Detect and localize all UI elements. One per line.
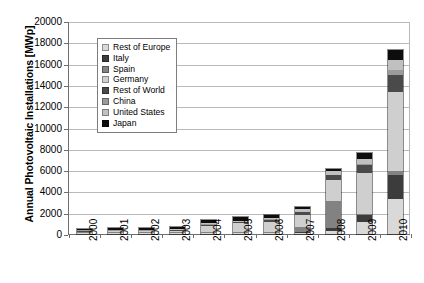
y-axis-tick-label: 6000 — [14, 165, 62, 176]
y-axis-tick-label: 4000 — [14, 186, 62, 197]
legend-swatch-icon — [102, 87, 109, 94]
legend-item-label: United States — [113, 108, 165, 117]
legend-item[interactable]: Italy — [102, 53, 173, 64]
x-axis-tick-label: 2010 — [398, 219, 409, 241]
chart-figure: Annual Photovoltaic Installations [MWp] … — [0, 0, 424, 283]
bar-segment — [388, 60, 403, 70]
y-axis-tick-label: 20000 — [14, 16, 62, 27]
x-axis-tick-mark — [349, 234, 350, 238]
legend-item-label: Germany — [113, 75, 148, 84]
legend-item-label: Rest of World — [113, 86, 165, 95]
x-axis-tick-label: 2001 — [119, 219, 130, 241]
legend-swatch-icon — [102, 76, 109, 83]
y-axis-tick-label: 16000 — [14, 59, 62, 70]
bar-segment — [388, 175, 403, 200]
x-axis-tick-label: 2000 — [88, 219, 99, 241]
x-axis-tick-mark — [131, 234, 132, 238]
x-axis-tick-label: 2005 — [243, 219, 254, 241]
x-axis-tick-mark — [162, 234, 163, 238]
bar-segment — [326, 180, 341, 201]
bar-segment — [388, 75, 403, 92]
legend-item[interactable]: United States — [102, 107, 173, 118]
x-axis-tick-mark — [69, 234, 70, 238]
bar-segment — [388, 92, 403, 171]
gridline — [69, 150, 410, 151]
legend-item-label: China — [113, 97, 135, 106]
x-axis-tick-label: 2008 — [336, 219, 347, 241]
x-axis-tick-label: 2009 — [367, 219, 378, 241]
legend-item-label: Japan — [113, 119, 136, 128]
x-axis-tick-mark — [100, 234, 101, 238]
gridline — [69, 22, 410, 23]
legend-swatch-icon — [102, 55, 109, 62]
x-axis-tick-label: 2004 — [212, 219, 223, 241]
y-axis-tick-label: 18000 — [14, 37, 62, 48]
bar-segment — [388, 50, 403, 61]
x-axis-tick-mark — [318, 234, 319, 238]
legend-item[interactable]: Spain — [102, 64, 173, 75]
y-axis-tick-mark — [64, 235, 68, 236]
x-axis-tick-mark — [287, 234, 288, 238]
stacked-bar[interactable] — [388, 50, 403, 234]
x-axis-tick-mark — [193, 234, 194, 238]
legend-swatch-icon — [102, 109, 109, 116]
legend-item[interactable]: Rest of World — [102, 86, 173, 97]
y-axis-tick-label: 10000 — [14, 123, 62, 134]
y-axis-tick-label: 8000 — [14, 144, 62, 155]
y-axis-tick-label: 0 — [14, 229, 62, 240]
chart-legend: Rest of EuropeItalySpainGermanyRest of W… — [97, 38, 177, 133]
legend-item-label: Italy — [113, 54, 129, 63]
legend-item[interactable]: Japan — [102, 118, 173, 129]
x-axis-tick-label: 2002 — [150, 219, 161, 241]
bar-segment — [357, 173, 372, 213]
legend-swatch-icon — [102, 120, 109, 127]
bar-segment — [357, 165, 372, 173]
y-axis-tick-label: 2000 — [14, 208, 62, 219]
legend-swatch-icon — [102, 66, 109, 73]
legend-item[interactable]: Rest of Europe — [102, 42, 173, 53]
legend-item-label: Spain — [113, 65, 135, 74]
legend-item[interactable]: Germany — [102, 75, 173, 86]
y-axis-tick-label: 14000 — [14, 80, 62, 91]
y-axis-tick-label: 12000 — [14, 101, 62, 112]
legend-swatch-icon — [102, 98, 109, 105]
x-axis-tick-mark — [256, 234, 257, 238]
x-axis-tick-mark — [411, 234, 412, 238]
x-axis-tick-label: 2007 — [305, 219, 316, 241]
x-axis-tick-label: 2003 — [181, 219, 192, 241]
x-axis-tick-label: 2006 — [274, 219, 285, 241]
x-axis-tick-mark — [380, 234, 381, 238]
legend-item[interactable]: China — [102, 96, 173, 107]
x-axis-tick-mark — [224, 234, 225, 238]
legend-item-label: Rest of Europe — [113, 43, 170, 52]
legend-swatch-icon — [102, 44, 109, 51]
